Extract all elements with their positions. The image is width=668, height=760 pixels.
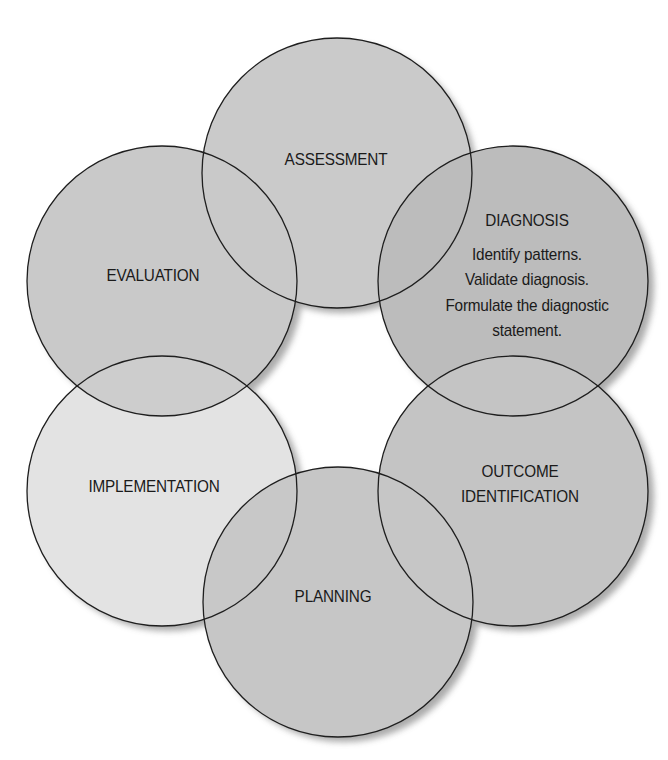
diagnosis-detail-line: Identify patterns. — [445, 242, 608, 268]
diagnosis-label: DIAGNOSIS — [445, 208, 608, 234]
outcome-label-line-1: OUTCOME — [482, 462, 559, 482]
diagnosis-detail-line: statement. — [445, 318, 608, 344]
evaluation-label: EVALUATION — [107, 266, 200, 286]
planning-label: PLANNING — [295, 587, 372, 607]
diagnosis-text-block: DIAGNOSIS Identify patterns. Validate di… — [445, 208, 608, 344]
nursing-process-cycle-diagram — [0, 0, 668, 760]
diagnosis-detail-line: Formulate the diagnostic — [445, 293, 608, 319]
implementation-label: IMPLEMENTATION — [88, 477, 219, 497]
diagnosis-detail-line: Validate diagnosis. — [445, 267, 608, 293]
outcome-label-line-2: IDENTIFICATION — [461, 487, 579, 507]
circle-fills — [27, 38, 648, 737]
assessment-label: ASSESSMENT — [285, 150, 388, 170]
